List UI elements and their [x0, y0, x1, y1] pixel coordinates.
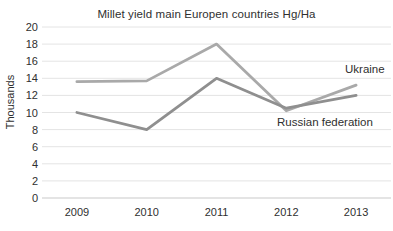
x-tick-label: 2010 [134, 206, 158, 218]
y-tick-label: 12 [26, 89, 38, 101]
x-tick-label: 2009 [65, 206, 89, 218]
y-tick-label: 16 [26, 55, 38, 67]
y-tick-label: 20 [26, 21, 38, 33]
chart-container: Millet yield main Europen countries Hg/H… [0, 0, 393, 231]
y-tick-label: 6 [32, 141, 38, 153]
y-tick-label: 14 [26, 72, 38, 84]
y-tick-label: 18 [26, 38, 38, 50]
y-tick-label: 2 [32, 175, 38, 187]
series-label-russian-federation: Russian federation [277, 116, 373, 128]
y-tick-label: 0 [32, 192, 38, 204]
y-tick-label: 10 [26, 107, 38, 119]
x-tick-label: 2011 [205, 206, 229, 218]
x-tick-label: 2012 [274, 206, 298, 218]
series-label-ukraine: Ukraine [345, 63, 385, 75]
y-tick-label: 8 [32, 124, 38, 136]
y-tick-label: 4 [32, 158, 38, 170]
x-tick-label: 2013 [344, 206, 368, 218]
